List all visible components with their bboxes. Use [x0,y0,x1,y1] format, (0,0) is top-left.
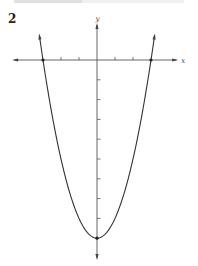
x-axis-arrow-right [172,58,178,61]
curve-arrow [152,33,155,39]
x-intercept-left-point [41,58,44,61]
y-axis-arrow-top [95,23,98,29]
vertex-point [95,237,98,240]
x-axis-label: x [181,57,185,65]
y-axis-label: y [95,15,101,23]
y-axis-arrow-bottom [95,254,98,260]
x-axis-arrow-left [12,58,18,61]
axes: x y [12,15,185,260]
curve-arrow [38,33,41,39]
x-intercept-right-point [149,58,152,61]
parabola-chart: x y [0,0,198,266]
